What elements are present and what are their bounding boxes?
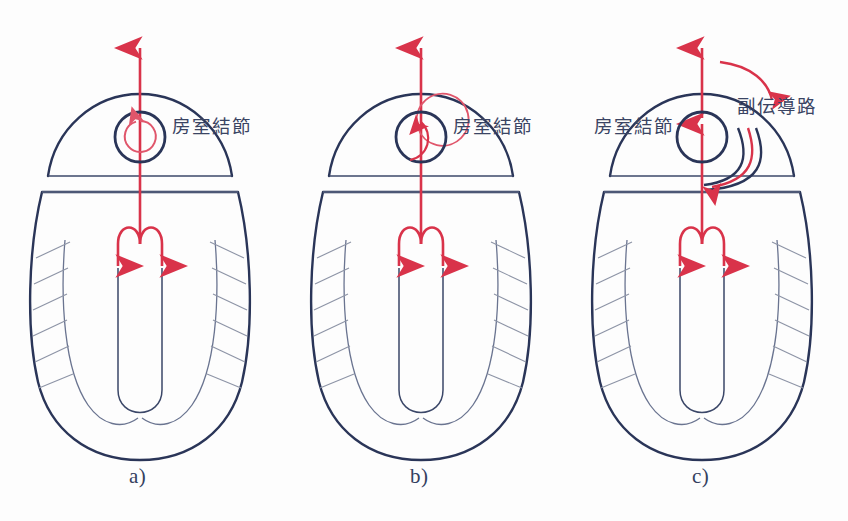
ventricle-inner-chamber-right (423, 240, 498, 424)
panel-b-graphics (311, 48, 531, 460)
ventricle-inner-chamber (63, 240, 138, 424)
av-node-label-b: 房室結節 (453, 112, 533, 138)
bundle-branch-fork (399, 228, 421, 267)
ventricle-inner-chamber (625, 240, 700, 424)
panel-caption-c: c) (692, 464, 709, 489)
panel-caption-a: a) (129, 464, 146, 489)
conduction-diagram-svg (0, 0, 848, 521)
ventricle-inner-chamber-right (704, 240, 779, 424)
interventricular-septum (118, 268, 162, 413)
ventricle-inner-chamber (344, 240, 419, 424)
reentry-loop-b-arrow (410, 122, 428, 160)
myocardial-striations (595, 242, 809, 388)
ventricle-inner-chamber-right (142, 240, 217, 424)
panel-caption-b: b) (410, 464, 429, 489)
interventricular-septum (399, 268, 443, 413)
av-node-label-c: 房室結節 (594, 112, 674, 138)
bundle-branch-fork-right (140, 228, 162, 267)
accessory-pathway-label: 副伝導路 (737, 92, 817, 118)
figure-root: 房室結節 房室結節 房室結節 副伝導路 a) b) c) (0, 0, 848, 521)
myocardial-striations (33, 242, 247, 388)
bundle-branch-fork (680, 228, 702, 267)
panel-a-graphics (30, 48, 250, 460)
bundle-branch-fork-right (421, 228, 443, 267)
myocardial-striations (314, 242, 528, 388)
bundle-branch-fork (118, 228, 140, 267)
bundle-branch-fork-right (702, 228, 724, 267)
av-node-label-a: 房室結節 (172, 112, 252, 138)
interventricular-septum (680, 268, 724, 413)
